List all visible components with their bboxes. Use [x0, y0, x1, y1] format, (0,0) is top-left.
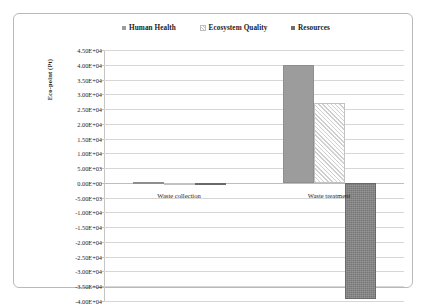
- chart-frame: Human Health Ecosystem Quality Resources…: [13, 13, 413, 288]
- gridline: [104, 109, 404, 110]
- y-axis-tick-label: 3.50E+04: [46, 76, 102, 83]
- gridline: [104, 65, 404, 66]
- y-axis-tick-label: 1.00E+04: [46, 150, 102, 157]
- legend-swatch-icon-resources: [291, 26, 295, 30]
- x-axis-category-label: Waste treatment: [254, 192, 404, 199]
- gridline: [104, 301, 404, 302]
- bar-resources-waste-collection[interactable]: [195, 183, 226, 185]
- bar-ecosystem-quality-waste-treatment[interactable]: [314, 103, 345, 183]
- legend-swatch-icon-ecosystem-quality: [200, 25, 206, 31]
- legend-label-human-health: Human Health: [129, 24, 176, 32]
- gridline: [104, 80, 404, 81]
- legend-label-resources: Resources: [298, 24, 330, 32]
- y-axis-tick-label: -2.00E+04: [46, 239, 102, 246]
- y-axis-tick-label: 4.50E+04: [46, 47, 102, 54]
- legend-item-ecosystem-quality[interactable]: Ecosystem Quality: [200, 24, 268, 32]
- y-axis-tick-label: -2.50E+04: [46, 253, 102, 260]
- bar-human-health-waste-collection[interactable]: [133, 182, 164, 184]
- y-axis-tick-label: -5.00E+03: [46, 194, 102, 201]
- y-axis-tick-label: 5.00E+03: [46, 165, 102, 172]
- legend-label-ecosystem-quality: Ecosystem Quality: [209, 24, 268, 32]
- y-axis-tick-label: 1.50E+04: [46, 135, 102, 142]
- y-axis-line: [104, 50, 105, 301]
- plot-area: 4.50E+044.00E+043.50E+043.00E+042.50E+04…: [104, 50, 404, 301]
- y-axis-tick-label: 3.00E+04: [46, 91, 102, 98]
- y-axis-tick-label: -3.00E+04: [46, 268, 102, 275]
- legend-item-human-health[interactable]: Human Health: [122, 24, 176, 32]
- y-axis-tick-label: -1.50E+04: [46, 224, 102, 231]
- gridline: [104, 50, 404, 51]
- y-axis-tick-label: -4.00E+04: [46, 298, 102, 305]
- y-axis-tick-label: 2.00E+04: [46, 120, 102, 127]
- chart-legend: Human Health Ecosystem Quality Resources: [36, 20, 414, 36]
- bar-ecosystem-quality-waste-collection[interactable]: [164, 183, 195, 185]
- legend-item-resources[interactable]: Resources: [291, 24, 330, 32]
- x-axis-category-label: Waste collection: [104, 192, 254, 199]
- y-axis-tick-label: 0.00E+00: [46, 179, 102, 186]
- bar-human-health-waste-treatment[interactable]: [283, 65, 314, 183]
- y-axis-tick-label: 4.00E+04: [46, 61, 102, 68]
- y-axis-tick-label: -3.50E+04: [46, 283, 102, 290]
- bar-resources-waste-treatment[interactable]: [345, 183, 376, 299]
- gridline: [104, 168, 404, 169]
- y-axis-tick-label: 2.50E+04: [46, 106, 102, 113]
- gridline: [104, 94, 404, 95]
- y-axis-tick-label: -1.00E+04: [46, 209, 102, 216]
- gridline: [104, 124, 404, 125]
- gridline: [104, 139, 404, 140]
- legend-swatch-icon-human-health: [122, 26, 126, 30]
- gridline: [104, 153, 404, 154]
